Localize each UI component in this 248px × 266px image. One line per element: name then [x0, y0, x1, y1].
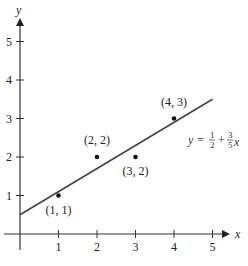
x-axis-label: x — [234, 227, 241, 241]
data-points: (1, 1)(2, 2)(3, 2)(4, 3) — [46, 95, 188, 217]
equation-annotation: y = 1 2 + 3 5 x — [187, 130, 240, 150]
eq-equals: = — [197, 133, 204, 147]
x-tick-label: 1 — [56, 240, 62, 254]
y-tick-label: 1 — [6, 189, 12, 203]
data-point — [133, 155, 138, 160]
y-tick-label: 5 — [6, 35, 12, 49]
eq-lhs: y — [187, 133, 194, 147]
x-tick-label: 3 — [133, 240, 139, 254]
point-label: (4, 3) — [161, 95, 187, 109]
eq-var: x — [233, 135, 240, 149]
eq-plus: + — [218, 133, 225, 147]
eq-frac2-den: 5 — [228, 140, 233, 150]
point-label: (1, 1) — [46, 203, 72, 217]
data-point — [95, 155, 100, 160]
y-tick-label: 3 — [6, 112, 12, 126]
x-tick-label: 5 — [210, 240, 216, 254]
data-point — [172, 116, 177, 121]
point-label: (3, 2) — [123, 164, 149, 178]
y-axis-label: y — [15, 3, 22, 17]
y-ticks: 12345 — [6, 35, 24, 203]
scatter-chart: x y 12345 12345 (1, 1)(2, 2)(3, 2)(4, 3)… — [0, 0, 248, 266]
point-label: (2, 2) — [84, 133, 110, 147]
y-tick-label: 4 — [6, 73, 12, 87]
eq-frac2-num: 3 — [228, 130, 233, 140]
x-tick-label: 4 — [171, 240, 177, 254]
y-tick-label: 2 — [6, 150, 12, 164]
regression-line — [20, 99, 213, 215]
x-tick-label: 2 — [94, 240, 100, 254]
eq-frac1-num: 1 — [210, 130, 215, 140]
eq-frac1-den: 2 — [210, 140, 215, 150]
data-point — [56, 193, 61, 198]
